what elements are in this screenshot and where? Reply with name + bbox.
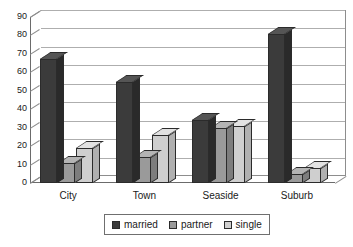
legend-item-married[interactable]: married bbox=[112, 220, 158, 230]
y-axis-tick-label: 70 bbox=[5, 49, 27, 58]
legend-label: married bbox=[124, 220, 158, 230]
x-axis-label-city: City bbox=[30, 190, 106, 202]
bar-front-face bbox=[268, 34, 285, 183]
bar-side-face bbox=[227, 123, 234, 183]
bar-side-face bbox=[285, 29, 292, 183]
chart-legend: marriedpartnersingle bbox=[104, 214, 270, 235]
plot-depth-edge bbox=[335, 176, 347, 184]
y-axis-tick-label: 0 bbox=[5, 178, 27, 187]
y-axis-tick-label: 30 bbox=[5, 123, 27, 132]
y-axis-tick-label: 10 bbox=[5, 160, 27, 169]
y-axis-labels: 0102030405060708090 bbox=[0, 0, 27, 247]
bar-front-face bbox=[116, 82, 133, 183]
x-axis-label-seaside: Seaside bbox=[183, 190, 259, 202]
legend-label: single bbox=[236, 220, 262, 230]
y-axis-tick-label: 60 bbox=[5, 67, 27, 76]
bar-chart: 0102030405060708090 CityTownSeasideSubur… bbox=[0, 0, 353, 247]
bar-side-face bbox=[133, 77, 140, 183]
y-axis-tick-label: 40 bbox=[5, 104, 27, 113]
legend-swatch-icon bbox=[169, 221, 177, 229]
y-axis-tick-label: 50 bbox=[5, 86, 27, 95]
bar-side-face bbox=[151, 153, 158, 183]
legend-swatch-icon bbox=[112, 221, 120, 229]
x-axis-label-suburb: Suburb bbox=[259, 190, 335, 202]
legend-swatch-icon bbox=[224, 221, 232, 229]
bar-front-face bbox=[192, 120, 209, 183]
y-axis-tick-label: 90 bbox=[5, 12, 27, 21]
legend-label: partner bbox=[181, 220, 213, 230]
bar-side-face bbox=[169, 131, 176, 183]
legend-item-single[interactable]: single bbox=[224, 220, 262, 230]
y-axis-tick-label: 80 bbox=[5, 30, 27, 39]
bar-side-face bbox=[209, 116, 216, 183]
bar-suburb-married[interactable] bbox=[268, 34, 285, 183]
bar-front-face bbox=[40, 59, 57, 183]
y-axis-tick-label: 20 bbox=[5, 141, 27, 150]
gridline bbox=[41, 10, 345, 11]
bar-town-married[interactable] bbox=[116, 82, 133, 183]
x-axis-labels: CityTownSeasideSuburb bbox=[0, 190, 353, 204]
bar-seaside-married[interactable] bbox=[192, 120, 209, 183]
bar-side-face bbox=[245, 121, 252, 183]
bar-side-face bbox=[93, 143, 100, 183]
bar-side-face bbox=[57, 55, 64, 183]
x-axis-label-town: Town bbox=[106, 190, 182, 202]
legend-item-partner[interactable]: partner bbox=[169, 220, 213, 230]
bar-city-married[interactable] bbox=[40, 59, 57, 183]
